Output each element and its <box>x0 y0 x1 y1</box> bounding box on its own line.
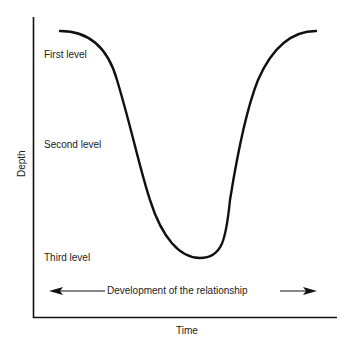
level-label-second: Second level <box>44 140 101 150</box>
level-label-first: First level <box>44 50 87 60</box>
development-arrow-label: Development of the relationship <box>106 286 249 296</box>
y-axis-label: Depth <box>17 150 27 177</box>
x-axis-label: Time <box>176 326 198 336</box>
level-label-third: Third level <box>44 253 90 263</box>
